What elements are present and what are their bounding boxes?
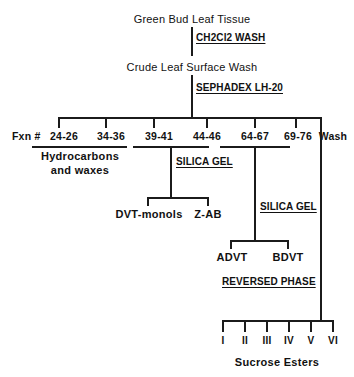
fraction-label-34-36: 34-36 <box>97 131 125 142</box>
node-hydrocarbons-and-waxes: Hydrocarbons and waxes <box>41 150 119 178</box>
silica-gel-1-stem <box>170 146 172 198</box>
reagent-reversed-phase: REVERSED PHASE <box>222 277 316 287</box>
dvt-monols-tick <box>147 197 149 206</box>
node-bdvt: BDVT <box>272 252 303 263</box>
node-z-ab: Z-AB <box>194 209 221 220</box>
node-dvt-monols: DVT-monols <box>115 209 182 220</box>
fraction-tick-34-36 <box>105 117 107 128</box>
sucrose-label-ii: II <box>242 336 248 346</box>
silica-gel-2-stem <box>254 146 256 241</box>
sucrose-tick-v <box>310 320 312 332</box>
fraction-tick-wash <box>320 117 322 128</box>
fraction-label-69-76: 69-76 <box>284 131 312 142</box>
fraction-distribution-bar <box>58 117 322 119</box>
sucrose-tick-iii <box>266 320 268 332</box>
hydrocarbons-line-1: Hydrocarbons <box>41 150 119 162</box>
fraction-tick-24-26 <box>58 117 60 128</box>
reagent-silica-gel-2: SILICA GEL <box>260 202 317 212</box>
fraction-label-64-67: 64-67 <box>241 131 269 142</box>
fraction-label-24-26: 24-26 <box>50 131 78 142</box>
connector-crude-to-fractions <box>191 75 193 118</box>
node-green-bud-leaf-tissue: Green Bud Leaf Tissue <box>134 14 251 25</box>
fraction-label-39-41: 39-41 <box>145 131 173 142</box>
dvt-split-bar <box>147 197 209 199</box>
sucrose-label-i: I <box>221 336 224 346</box>
reagent-silica-gel-1: SILICA GEL <box>176 157 233 167</box>
wash-trunk-line <box>320 128 322 320</box>
reagent-sephadex-lh-20: SEPHADEX LH-20 <box>196 83 283 93</box>
sucrose-tick-i <box>222 320 224 332</box>
sucrose-label-iii: III <box>262 336 271 346</box>
fraction-tick-64-67 <box>254 117 256 128</box>
fraction-tick-69-76 <box>295 117 297 128</box>
advt-tick <box>230 240 232 249</box>
sucrose-label-iv: IV <box>284 336 294 346</box>
fraction-tick-44-46 <box>206 117 208 128</box>
sucrose-tick-vi <box>332 320 334 332</box>
fraction-label-wash: Wash <box>319 131 347 142</box>
fraction-label-44-46: 44-46 <box>193 131 221 142</box>
sucrose-label-vi: VI <box>328 336 338 346</box>
sucrose-tick-ii <box>244 320 246 332</box>
node-advt: ADVT <box>216 252 247 263</box>
hydrocarbons-line-2: and waxes <box>51 164 109 176</box>
connector-source-to-crude <box>191 27 193 56</box>
flowchart-canvas: Green Bud Leaf Tissue CH2Cl2 WASH Crude … <box>0 0 354 377</box>
hydrocarbons-group-bar <box>32 146 127 148</box>
node-crude-leaf-surface-wash: Crude Leaf Surface Wash <box>127 62 258 73</box>
fraction-tick-39-41 <box>153 117 155 128</box>
sucrose-label-v: V <box>308 336 315 346</box>
fraction-prefix-label: Fxn # <box>12 131 40 142</box>
sucrose-ester-distribution-bar <box>222 320 333 322</box>
reagent-ch2cl2-wash: CH2Cl2 WASH <box>196 33 265 43</box>
z-ab-tick <box>207 197 209 206</box>
sucrose-tick-iv <box>288 320 290 332</box>
dvt-ab-split-bar <box>230 240 288 242</box>
bdvt-tick <box>287 240 289 249</box>
node-sucrose-esters: Sucrose Esters <box>235 357 319 368</box>
